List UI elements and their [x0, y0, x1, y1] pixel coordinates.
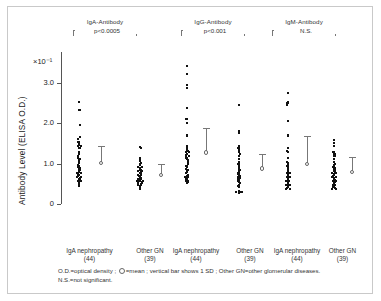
data-point: [333, 158, 335, 160]
data-point: [289, 184, 291, 186]
y-tick-label: 2.0: [28, 118, 54, 127]
data-point: [238, 158, 240, 160]
sd-bar-cap: [98, 146, 105, 147]
data-point: [79, 124, 81, 126]
data-point: [333, 142, 335, 144]
significance-label-igg: p<0.001: [183, 27, 247, 34]
sd-bar: [307, 136, 308, 163]
x-axis-group-count: (44): [166, 255, 226, 262]
sd-bar-cap: [349, 157, 356, 158]
data-point: [333, 145, 335, 147]
data-point: [186, 107, 188, 109]
significance-label-igm: N.S.: [274, 27, 338, 34]
sd-bar-cap: [259, 154, 266, 155]
sd-bar-cap: [304, 136, 311, 137]
data-point: [287, 120, 289, 122]
x-axis-group-label: Other GN: [313, 247, 373, 254]
footnote-line2: N.S.=not significant.: [58, 275, 368, 284]
group-title-iga: IgA-Antibody: [57, 18, 153, 25]
data-point: [188, 151, 190, 153]
data-point: [287, 92, 289, 94]
sd-bar: [206, 128, 207, 153]
y-axis-line: [61, 52, 62, 204]
x-axis-group-label: IgA nephropathy: [166, 247, 226, 254]
footnote-line1-b: =mean ; vertical bar shows 1 SD ; Other …: [126, 267, 320, 274]
data-point: [80, 172, 82, 174]
data-point: [331, 188, 333, 190]
data-point: [186, 135, 188, 137]
data-point: [286, 104, 288, 106]
x-axis-group-count: (39): [313, 255, 373, 262]
data-point: [186, 65, 188, 67]
data-point: [287, 147, 289, 149]
data-point: [186, 182, 188, 184]
data-point: [238, 132, 240, 134]
data-point: [238, 192, 240, 194]
figure-root: IgA-Antibody IgG-Antibody IgM-Antibody p…: [0, 0, 381, 301]
group-title-igm: IgM-Antibody: [256, 18, 352, 25]
data-point: [80, 180, 82, 182]
data-point: [188, 155, 190, 157]
data-point: [77, 138, 79, 140]
data-point: [139, 188, 141, 190]
data-point: [335, 188, 337, 190]
mean-marker: [305, 162, 309, 166]
footnote-line1-a: O.D.=optical density ;: [58, 267, 116, 274]
y-tick-mark: [57, 83, 61, 84]
data-point: [287, 151, 289, 153]
mean-marker: [260, 166, 264, 170]
data-point: [235, 191, 237, 193]
data-point: [241, 191, 243, 193]
y-axis-exponent: ×10⁻¹: [33, 57, 52, 66]
data-point: [185, 118, 187, 120]
data-point: [78, 101, 80, 103]
mean-marker: [350, 170, 354, 174]
data-point: [186, 73, 188, 75]
data-point: [186, 87, 188, 89]
data-point: [78, 109, 80, 111]
data-point: [333, 139, 335, 141]
data-point: [285, 188, 287, 190]
x-axis-group-count: (44): [60, 255, 120, 262]
data-point: [78, 147, 80, 149]
data-point: [238, 155, 240, 157]
sd-bar-cap: [203, 128, 210, 129]
mean-symbol-icon: [119, 268, 125, 274]
data-point: [186, 122, 188, 124]
data-point: [186, 84, 188, 86]
figure-footnote: O.D.=optical density ; =mean ; vertical …: [58, 266, 368, 284]
data-point: [287, 135, 289, 137]
data-point: [238, 186, 240, 188]
y-tick-mark: [57, 123, 61, 124]
data-point: [78, 185, 80, 187]
data-point: [140, 147, 142, 149]
mean-marker: [204, 150, 208, 154]
y-tick-label: 1.0: [28, 159, 54, 168]
y-axis-label: Antibody Level (ELISA O.D.): [18, 96, 27, 205]
data-point: [333, 155, 335, 157]
data-point: [238, 104, 240, 106]
x-axis-group-label: IgA nephropathy: [60, 247, 120, 254]
data-point: [289, 188, 291, 190]
y-tick-mark: [57, 204, 61, 205]
data-point: [287, 157, 289, 159]
y-tick-label: 0: [28, 199, 54, 208]
y-tick-mark: [57, 164, 61, 165]
y-tick-label: 3.0: [28, 78, 54, 87]
data-point: [335, 180, 337, 182]
group-title-igg: IgG-Antibody: [165, 18, 261, 25]
significance-label-iga: p<0.0005: [75, 27, 139, 34]
sd-bar-cap: [158, 164, 165, 165]
